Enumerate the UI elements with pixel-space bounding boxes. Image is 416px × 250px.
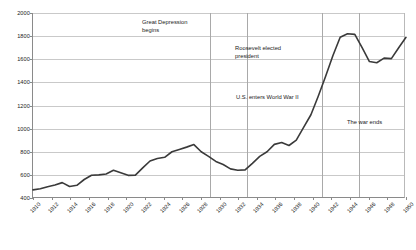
x-axis-tick-label: 1912 [47, 201, 60, 214]
x-axis-tick-label: 1914 [65, 201, 78, 214]
y-axis-tick-label: 1000 [17, 126, 30, 132]
x-axis-tick-label: 1922 [140, 201, 153, 214]
annotation-roosevelt-elected: Roosevelt elected president [235, 44, 281, 61]
x-tick-mark [406, 197, 407, 200]
x-axis-tick-label: 1944 [345, 201, 358, 214]
y-axis-tick-label: 600 [20, 172, 30, 178]
x-axis-tick-label: 1920 [121, 201, 134, 214]
plot-area: 4006008001000120014001600180020001910191… [32, 13, 405, 198]
y-axis-tick-label: 1600 [17, 56, 30, 62]
y-axis-tick-label: 400 [20, 195, 30, 201]
annotation-war-ends: The war ends [347, 118, 382, 126]
x-axis-tick-label: 1928 [196, 201, 209, 214]
x-axis-tick-label: 1924 [159, 201, 172, 214]
series-polyline [33, 34, 406, 190]
y-axis-tick-label: 2000 [17, 10, 30, 16]
x-axis-tick-label: 1934 [252, 201, 265, 214]
annotation-us-enters-wwii: U.S. enters World War II [236, 93, 299, 101]
x-axis-tick-label: 1938 [289, 201, 302, 214]
y-axis-tick-label: 800 [20, 149, 30, 155]
x-axis-tick-label: 1948 [383, 201, 396, 214]
x-axis-tick-label: 1918 [103, 201, 116, 214]
series-line [33, 13, 406, 198]
x-axis-tick-label: 1936 [271, 201, 284, 214]
x-axis-tick-label: 1940 [308, 201, 321, 214]
line-chart: 4006008001000120014001600180020001910191… [0, 0, 416, 250]
y-axis-tick-label: 1400 [17, 79, 30, 85]
x-axis-tick-label: 1930 [215, 201, 228, 214]
y-axis-tick-label: 1800 [17, 33, 30, 39]
y-axis-tick-label: 1200 [17, 103, 30, 109]
x-axis-tick-label: 1946 [364, 201, 377, 214]
x-axis-tick-label: 1910 [28, 201, 41, 214]
x-axis-tick-label: 1932 [233, 201, 246, 214]
annotation-great-depression: Great Depression begins [142, 18, 187, 35]
x-axis-tick-label: 1950 [401, 201, 414, 214]
x-axis-tick-label: 1916 [84, 201, 97, 214]
x-axis-tick-label: 1926 [177, 201, 190, 214]
x-axis-tick-label: 1942 [327, 201, 340, 214]
